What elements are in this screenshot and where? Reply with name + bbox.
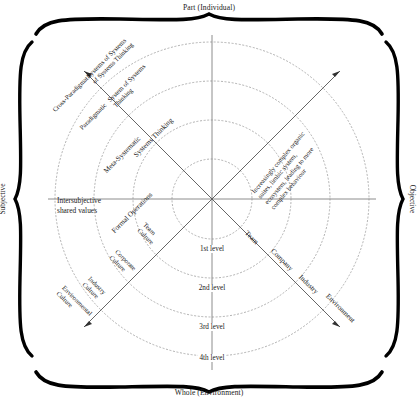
level-label-2: 2nd level [197,284,227,292]
level-label-4: 4th level [198,354,226,362]
axis-label-subjective: Subjective [0,183,7,214]
bracket-top [36,14,382,34]
arrowhead-sw [84,321,92,327]
title-bottom: Whole (Environment) [175,389,244,397]
axis-label-objective: Objective [408,185,417,214]
diagram-canvas: Part (Individual) Whole (Environment) Su… [0,0,418,406]
arrowhead-ne [332,71,340,77]
bracket-left [15,42,32,356]
level-label-3: 3rd level [198,323,226,331]
note-intersubjective-line1: Intersubjective [57,196,101,206]
bracket-right [386,42,403,356]
note-intersubjective: Intersubjective shared values [57,196,101,215]
title-top: Part (Individual) [183,4,235,12]
arrowhead-se [332,321,340,327]
level-label-1: 1st level [198,245,225,253]
note-intersubjective-line2: shared values [57,206,101,216]
